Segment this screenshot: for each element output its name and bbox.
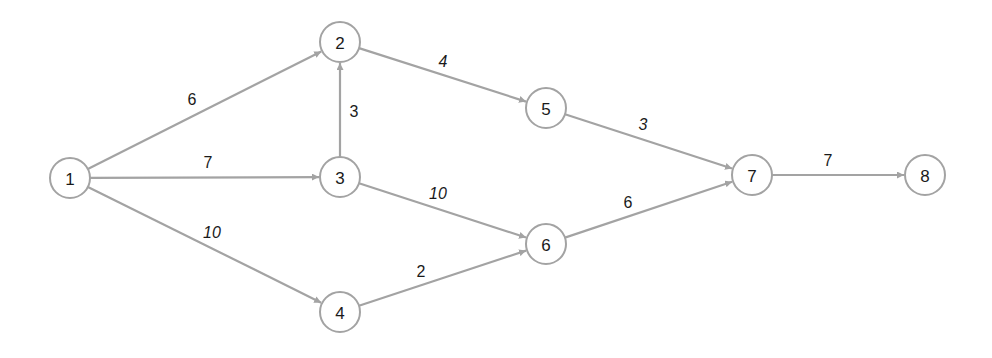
node-label: 8 [920, 167, 929, 186]
edge-weight-label: 3 [639, 116, 648, 133]
edge-weight-label: 3 [350, 103, 359, 120]
node-label: 5 [541, 100, 550, 119]
node-label: 7 [747, 167, 756, 186]
node-1: 1 [50, 158, 90, 198]
network-diagram: 671034102367 12345678 [0, 0, 992, 358]
edge-6-7 [565, 182, 732, 238]
edge-1-3 [90, 177, 319, 178]
edge-weight-label: 6 [188, 91, 197, 108]
edges-layer [88, 48, 904, 306]
edge-weight-label: 10 [429, 185, 447, 202]
node-label: 6 [541, 236, 550, 255]
edge-4-6 [359, 251, 526, 306]
edge-weight-label: 7 [824, 152, 833, 169]
node-3: 3 [320, 157, 360, 197]
node-label: 3 [335, 169, 344, 188]
edge-weight-label: 6 [624, 194, 633, 211]
node-4: 4 [320, 292, 360, 332]
node-7: 7 [732, 155, 772, 195]
edge-weight-label: 10 [203, 224, 221, 241]
node-2: 2 [320, 22, 360, 62]
edge-1-4 [88, 187, 321, 303]
edge-weight-label: 2 [417, 263, 426, 280]
node-label: 4 [335, 304, 344, 323]
edge-weight-label: 4 [439, 53, 448, 70]
node-6: 6 [526, 224, 566, 264]
edge-weight-label: 7 [204, 154, 213, 171]
node-5: 5 [526, 88, 566, 128]
node-label: 2 [335, 34, 344, 53]
edge-5-7 [565, 114, 732, 168]
node-8: 8 [905, 155, 945, 195]
node-label: 1 [65, 170, 74, 189]
edge-1-2 [88, 51, 321, 169]
